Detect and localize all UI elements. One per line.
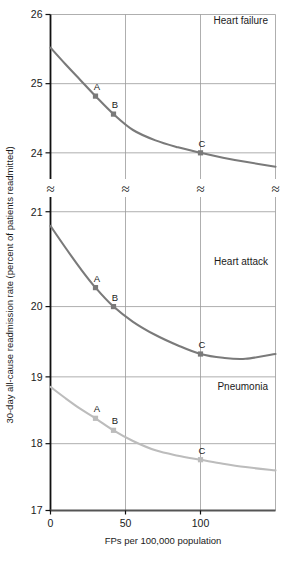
readmission-rate-line-chart: 2425262021171819≈≈≈≈ABCABCABCHeart failu… — [0, 0, 287, 563]
y-tick-label-18: 18 — [31, 437, 43, 449]
data-point-marker-B — [111, 428, 116, 433]
panel-label-heart-attack: Heart attack — [214, 256, 269, 267]
x-axis-title: FPs per 100,000 population — [105, 535, 222, 546]
x-tick-label-0: 0 — [48, 517, 54, 529]
data-point-marker-B — [111, 112, 116, 117]
axis-break-symbol-2: ≈ — [196, 181, 204, 197]
x-tick-label-50: 50 — [120, 517, 132, 529]
y-axis-title: 30-day all-cause readmission rate (perce… — [4, 146, 15, 423]
data-point-label-B: B — [112, 292, 118, 303]
data-point-label-B: B — [112, 99, 118, 110]
panel-labels: Heart failureHeart attackPneumonia — [214, 15, 269, 392]
data-point-marker-B — [111, 304, 116, 309]
y-tick-label-21: 21 — [31, 206, 43, 218]
axis-break-symbol-1: ≈ — [121, 181, 129, 197]
data-point-marker-A — [93, 416, 98, 421]
data-point-marker-A — [93, 285, 98, 290]
axis-break-markers: ≈≈≈≈ — [43, 179, 284, 197]
y-tick-label-24: 24 — [31, 147, 43, 159]
curve-line — [51, 387, 276, 471]
y-tick-label-20: 20 — [31, 300, 43, 312]
panel-label-heart-failure: Heart failure — [214, 15, 269, 26]
curve-line — [51, 226, 276, 359]
data-point-marker-C — [198, 457, 203, 462]
curve-line — [51, 48, 276, 167]
x-tick-label-100: 100 — [192, 517, 210, 529]
panel-label-pneumonia: Pneumonia — [217, 381, 268, 392]
axis-break-symbol-0: ≈ — [46, 181, 54, 197]
data-point-label-A: A — [94, 273, 101, 284]
data-point-label-C: C — [199, 339, 206, 350]
x-tick-labels: 050100 — [48, 511, 210, 529]
data-point-label-A: A — [94, 81, 101, 92]
y-tick-labels: 2425262021171819 — [31, 8, 51, 516]
axis-break-symbol-3: ≈ — [271, 181, 279, 197]
y-tick-label-25: 25 — [31, 77, 43, 89]
y-tick-label-26: 26 — [31, 8, 43, 20]
y-tick-label-19: 19 — [31, 371, 43, 383]
series-heart-failure: ABC — [51, 48, 276, 167]
series-heart-attack: ABC — [51, 226, 276, 359]
data-point-label-C: C — [199, 138, 206, 149]
data-point-marker-A — [93, 94, 98, 99]
data-point-label-A: A — [94, 403, 101, 414]
data-point-label-C: C — [199, 445, 206, 456]
data-point-marker-C — [198, 150, 203, 155]
data-point-label-B: B — [112, 415, 118, 426]
chart-container: 2425262021171819≈≈≈≈ABCABCABCHeart failu… — [0, 0, 287, 563]
data-point-marker-C — [198, 351, 203, 356]
series-pneumonia: ABC — [51, 387, 276, 471]
y-tick-label-17: 17 — [31, 504, 43, 516]
